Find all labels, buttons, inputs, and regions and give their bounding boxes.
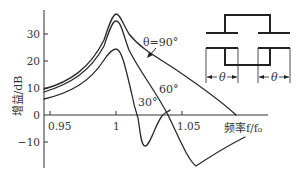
- x-tick-labels: 0.95 1 1.05: [48, 120, 200, 132]
- ytick-20: 20: [27, 55, 40, 67]
- ytick-0: 0: [33, 109, 40, 121]
- x-axis-label: 频率f/f₀: [224, 121, 263, 135]
- xtick-1.05: 1.05: [177, 120, 200, 132]
- inset-theta-left: θ: [219, 71, 226, 84]
- gain-vs-frequency-chart: 30 20 10 0 −10 0.95 1 1.05 增益/dB 频率f/f₀ …: [0, 0, 302, 181]
- ytick-10: 10: [27, 82, 40, 94]
- inset-theta-right: θ: [271, 71, 278, 84]
- annotation-theta-30: 30°: [138, 96, 158, 109]
- xtick-0.95: 0.95: [48, 120, 71, 132]
- xtick-1: 1: [113, 120, 120, 132]
- y-axis-label: 增益/dB: [11, 76, 25, 117]
- ytick-minus10: −10: [18, 136, 40, 148]
- x-ticks: [50, 111, 182, 115]
- annotation-theta-60: 60°: [159, 83, 179, 96]
- ytick-30: 30: [27, 28, 40, 40]
- coupled-line-inset-diagram: θ θ: [206, 15, 290, 84]
- annotation-theta-90: θ=90°: [143, 36, 178, 49]
